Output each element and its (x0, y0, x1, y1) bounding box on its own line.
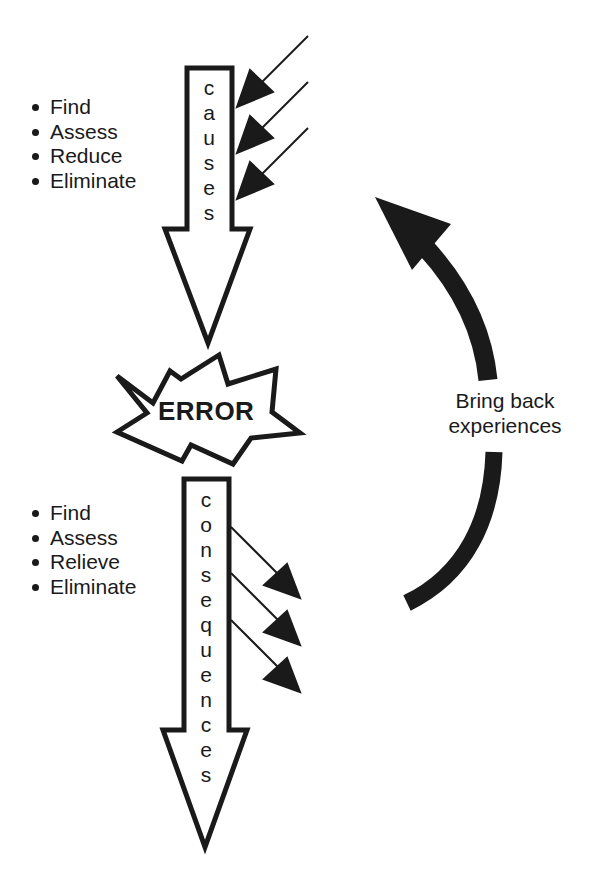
error-label: ERROR (158, 396, 254, 427)
letter: s (201, 762, 212, 787)
incoming-cause-arrows (237, 36, 308, 199)
feedback-label-line: experiences (425, 413, 585, 438)
causes-actions-list: Find Assess Reduce Eliminate (28, 95, 136, 193)
outgoing-consequence-arrows (231, 527, 300, 692)
consequences-action-item: Relieve (28, 550, 136, 575)
letter: s (204, 150, 215, 175)
consequences-action-item: Find (28, 501, 136, 526)
feedback-arc-lower (407, 452, 494, 603)
consequences-vertical-label: c o n s e q u e n c e s (196, 487, 216, 787)
letter: q (200, 612, 212, 637)
letter: s (204, 200, 215, 225)
letter: n (200, 537, 212, 562)
letter: o (200, 512, 212, 537)
causes-vertical-label: c a u s e s (199, 75, 219, 225)
feedback-label-line: Bring back (425, 388, 585, 413)
letter: n (200, 687, 212, 712)
consequences-actions-list: Find Assess Relieve Eliminate (28, 501, 136, 599)
feedback-arc-upper (425, 247, 488, 380)
consequences-action-item: Assess (28, 526, 136, 551)
causes-action-item: Find (28, 95, 136, 120)
letter: s (201, 562, 212, 587)
letter: a (203, 100, 215, 125)
causes-action-item: Reduce (28, 144, 136, 169)
letter: c (201, 712, 212, 737)
causes-action-item: Assess (28, 120, 136, 145)
letter: e (200, 587, 212, 612)
letter: c (201, 487, 212, 512)
letter: u (203, 125, 215, 150)
causes-action-item: Eliminate (28, 169, 136, 194)
letter: c (204, 75, 215, 100)
letter: e (203, 175, 215, 200)
letter: u (200, 637, 212, 662)
feedback-loop-label: Bring back experiences (425, 388, 585, 438)
letter: e (200, 662, 212, 687)
consequences-action-item: Eliminate (28, 575, 136, 600)
letter: e (200, 737, 212, 762)
